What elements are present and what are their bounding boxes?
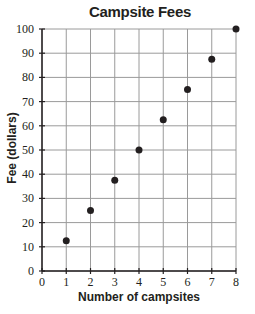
data-point [63, 237, 70, 244]
y-tick-label: 90 [4, 47, 34, 59]
data-point [111, 177, 118, 184]
x-tick-label: 5 [153, 275, 173, 290]
x-tick-label: 0 [32, 275, 52, 290]
plot-area [0, 0, 255, 314]
x-tick-label: 8 [226, 275, 246, 290]
data-point [136, 147, 143, 154]
x-tick-label: 4 [129, 275, 149, 290]
y-tick-label: 60 [4, 120, 34, 132]
data-point [160, 116, 167, 123]
data-point [233, 26, 240, 33]
y-tick-label: 40 [4, 168, 34, 180]
y-tick-label: 80 [4, 71, 34, 83]
y-tick-label: 30 [4, 192, 34, 204]
y-tick-label: 70 [4, 96, 34, 108]
y-tick-label: 0 [4, 265, 34, 277]
y-tick-label: 100 [4, 23, 34, 35]
x-tick-label: 2 [81, 275, 101, 290]
x-axis-label: Number of campsites [42, 290, 236, 304]
x-tick-label: 6 [178, 275, 198, 290]
x-tick-label: 7 [202, 275, 222, 290]
data-point [208, 56, 215, 63]
x-tick-label: 3 [105, 275, 125, 290]
x-tick-label: 1 [56, 275, 76, 290]
y-tick-label: 10 [4, 241, 34, 253]
data-point [184, 86, 191, 93]
y-tick-label: 50 [4, 144, 34, 156]
data-point [87, 207, 94, 214]
y-tick-label: 20 [4, 217, 34, 229]
